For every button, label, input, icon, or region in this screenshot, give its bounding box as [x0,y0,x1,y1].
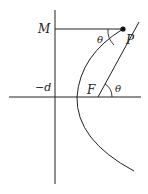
parabola-curve [77,29,134,171]
label-theta-f: θ [115,83,121,94]
label-theta-p: θ [97,34,103,45]
point-P [120,26,125,31]
label-F: F [86,83,96,97]
label-M: M [37,22,51,36]
angle-arc-f [105,84,112,97]
label-P: P [125,33,135,47]
diagram-canvas: M P θ −d F θ [0,0,148,194]
label-neg-d: −d [35,81,51,94]
